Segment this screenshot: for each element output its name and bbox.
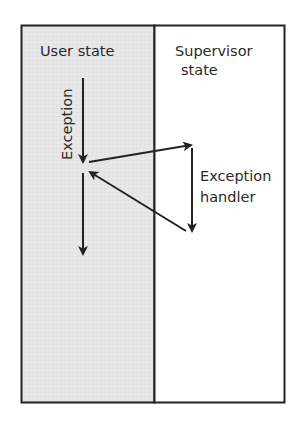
supervisor-state-label-line1: Supervisor: [175, 43, 253, 59]
exception-flow-diagram: User state Supervisor state Exception Ex…: [0, 0, 307, 429]
handler-label-line2: handler: [200, 189, 255, 205]
handler-label-line1: Exception: [200, 168, 271, 184]
exception-vertical-label: Exception: [59, 89, 75, 160]
supervisor-state-region: [155, 26, 285, 403]
user-state-region: [22, 26, 155, 403]
user-state-label: User state: [40, 43, 114, 59]
supervisor-state-label-line2: state: [181, 62, 218, 78]
